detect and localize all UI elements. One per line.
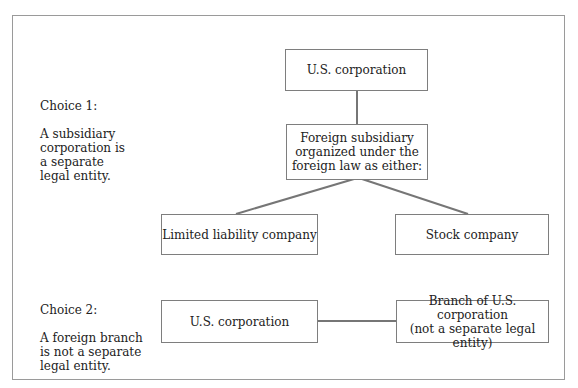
foreign-subsidiary-label: Foreign subsidiary organized under the f… [292, 131, 422, 173]
stock-company-box: Stock company [395, 214, 549, 255]
branch-label: Branch of U.S. corporation (not a separa… [397, 294, 548, 350]
us-corporation-branch-parent-box: U.S. corporation [161, 300, 318, 343]
choice-1-text: A subsidiary corporation is a separate l… [40, 127, 125, 183]
connector-subsidiary-to-llc [236, 179, 354, 214]
stock-company-label: Stock company [426, 228, 519, 242]
us-corporation-branch-parent-label: U.S. corporation [190, 315, 289, 329]
connector-subsidiary-to-stock [362, 179, 468, 214]
choice-1-description: Choice 1: A subsidiary corporation is a … [40, 85, 125, 197]
llc-label: Limited liability company [162, 228, 317, 242]
llc-box: Limited liability company [161, 214, 318, 255]
choice-1-label: Choice 1: [40, 99, 125, 113]
choice-2-description: Choice 2: A foreign branch is not a sepa… [40, 289, 143, 387]
us-corporation-label: U.S. corporation [307, 63, 406, 77]
branch-box: Branch of U.S. corporation (not a separa… [396, 300, 549, 343]
us-corporation-box: U.S. corporation [285, 49, 428, 91]
choice-2-text: A foreign branch is not a separate legal… [40, 331, 143, 373]
choice-2-label: Choice 2: [40, 303, 143, 317]
foreign-subsidiary-box: Foreign subsidiary organized under the f… [286, 124, 428, 180]
